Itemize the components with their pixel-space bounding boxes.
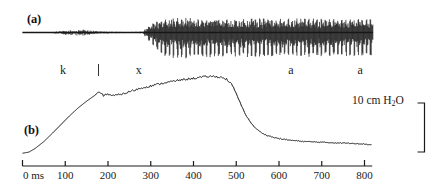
axis-tick-label-300: 300 <box>143 169 160 181</box>
axis-tick-label-100: 100 <box>57 169 74 181</box>
scale-bar-unit-pre: cm H <box>364 94 392 106</box>
axis-tick-label-200: 200 <box>100 169 117 181</box>
axis-tick-label-0: 0 ms <box>23 169 44 181</box>
figure-root: (a) (b) 10 cm H2O kxaa 0 ms1002003004005… <box>0 0 438 189</box>
scale-bar-label: 10 cm H2O <box>352 94 404 108</box>
segment-boundary-marker <box>98 64 100 76</box>
segment-label-a-4: a <box>351 63 369 78</box>
axis-tick-label-500: 500 <box>228 169 245 181</box>
axis-tick-label-400: 400 <box>185 169 202 181</box>
segment-label-x-2: x <box>130 63 148 78</box>
scale-bar-value: 10 <box>352 94 364 106</box>
axis-tick-label-700: 700 <box>314 169 331 181</box>
segment-label-k-0: k <box>54 63 72 78</box>
segment-label-a-3: a <box>282 63 300 78</box>
scale-bar-unit-post: O <box>396 94 404 106</box>
axis-tick-label-600: 600 <box>271 169 288 181</box>
axis-tick-label-800: 800 <box>356 169 373 181</box>
